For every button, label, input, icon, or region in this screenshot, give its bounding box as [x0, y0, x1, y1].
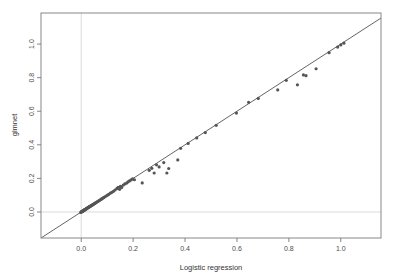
- scatter-point: [148, 169, 151, 172]
- scatter-point: [339, 43, 342, 46]
- scatter-point: [165, 171, 168, 174]
- x-axis-title: Logistic regression: [180, 263, 243, 272]
- y-axis-tick-label: 0.6: [28, 106, 35, 116]
- scatter-point: [257, 97, 260, 100]
- plot-canvas: 0.00.20.40.60.81.0 0.00.20.40.60.81.0 Lo…: [0, 0, 396, 280]
- scatter-point: [215, 124, 218, 127]
- scatter-point: [276, 88, 279, 91]
- x-axis-tick-label: 0.8: [284, 245, 294, 252]
- scatter-point: [162, 161, 165, 164]
- y-axis-tick-label: 0.8: [28, 73, 35, 83]
- scatter-point: [133, 178, 136, 181]
- scatter-point: [150, 167, 153, 170]
- scatter-point: [336, 45, 339, 48]
- scatter-point: [342, 42, 345, 45]
- scatter-point: [187, 142, 190, 145]
- y-axis-tick-label: 0.2: [28, 173, 35, 183]
- y-axis-title: glmnet: [10, 113, 19, 136]
- x-axis-tick-label: 0.2: [128, 245, 138, 252]
- scatter-point: [153, 171, 156, 174]
- scatter-point: [296, 83, 299, 86]
- x-axis-tick-label: 0.4: [180, 245, 190, 252]
- scatter-plot-figure: 0.00.20.40.60.81.0 0.00.20.40.60.81.0 Lo…: [0, 0, 396, 280]
- y-axis-tick-label: 0.0: [28, 207, 35, 217]
- scatter-point: [204, 131, 207, 134]
- x-axis-tick-label: 0.6: [232, 245, 242, 252]
- y-axis-tick-label: 1.0: [28, 39, 35, 49]
- x-axis-tick-label: 0.0: [76, 245, 86, 252]
- scatter-point: [327, 51, 330, 54]
- x-axis-tick-label: 1.0: [336, 245, 346, 252]
- scatter-point: [155, 163, 158, 166]
- scatter-point: [167, 167, 170, 170]
- scatter-point: [285, 79, 288, 82]
- y-axis-tick-label: 0.4: [28, 140, 35, 150]
- scatter-point: [235, 111, 238, 114]
- scatter-point: [315, 67, 318, 70]
- scatter-point: [195, 136, 198, 139]
- scatter-point: [304, 74, 307, 77]
- scatter-point: [179, 147, 182, 150]
- scatter-point: [176, 158, 179, 161]
- scatter-point: [157, 165, 160, 168]
- scatter-point: [141, 181, 144, 184]
- scatter-point: [247, 101, 250, 104]
